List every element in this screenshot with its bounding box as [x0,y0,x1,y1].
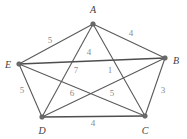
vertex-node-d [40,115,45,120]
graph-canvas [0,0,187,139]
vertex-node-e [17,62,22,67]
vertex-node-c [143,114,148,119]
graph-figure: 5434541765ABCDE [0,0,187,139]
edges-group [19,24,165,117]
edge-c-d [42,116,145,117]
edge-a-b [93,24,165,58]
edge-e-b [19,58,165,64]
vertex-node-a [91,22,96,27]
vertex-node-b [163,56,168,61]
edge-d-b [42,58,165,117]
vertices-group [17,22,168,120]
edge-a-c [93,24,145,116]
